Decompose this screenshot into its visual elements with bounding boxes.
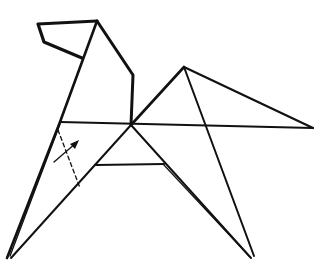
- belly-line: [96, 164, 164, 165]
- head-outline: [38, 21, 97, 58]
- front-leg-inner: [10, 124, 60, 256]
- body-line: [60, 122, 313, 128]
- origami-horse-diagram: [0, 0, 325, 274]
- horse-outline: [7, 21, 313, 258]
- front-neck-leg-edge: [7, 21, 97, 258]
- dashed-fold-line: [58, 130, 80, 188]
- fold-annotations: [54, 130, 80, 188]
- neck-back-edge: [97, 21, 133, 125]
- back-rise: [131, 67, 184, 125]
